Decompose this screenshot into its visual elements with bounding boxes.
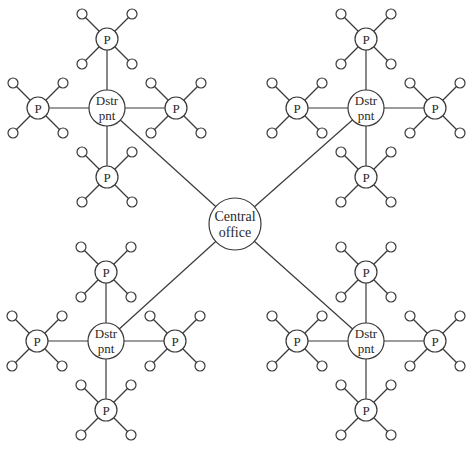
subscriber-node-bottom-right-bottom-1-circle [386, 380, 396, 390]
subscriber-node-bottom-left-right-2-circle [145, 361, 155, 371]
central-office-node-label: office [219, 225, 251, 240]
p-node-top-left-bottom: P [96, 166, 118, 188]
subscriber-node-bottom-left-left-2-circle [7, 361, 17, 371]
subscriber-node-bottom-left-right-3 [195, 361, 205, 371]
distribution-point-top-left: Dstrpnt [89, 90, 125, 126]
subscriber-node-top-right-top-3-circle [386, 59, 396, 69]
subscriber-node-top-right-bottom-2 [336, 197, 346, 207]
subscriber-node-top-left-bottom-1-circle [127, 147, 137, 157]
subscriber-node-bottom-right-bottom-3-circle [386, 430, 396, 440]
subscriber-node-top-right-left-2-circle [267, 128, 277, 138]
subscriber-node-top-right-bottom-1-circle [386, 147, 396, 157]
subscriber-node-top-right-right-2-circle [405, 128, 415, 138]
subscriber-node-bottom-right-left-0 [267, 311, 277, 321]
subscriber-node-top-left-bottom-2 [77, 197, 87, 207]
subscriber-node-bottom-right-right-0 [405, 311, 415, 321]
subscriber-node-top-right-bottom-2-circle [336, 197, 346, 207]
distribution-point-bottom-right: Dstrpnt [348, 323, 384, 359]
distribution-point-bottom-left-label: Dstr [95, 326, 118, 341]
subscriber-node-top-left-bottom-0-circle [77, 147, 87, 157]
p-node-bottom-left-bottom: P [95, 399, 117, 421]
subscriber-node-bottom-right-top-3-circle [386, 292, 396, 302]
distribution-point-bottom-right-label: pnt [358, 341, 375, 356]
subscriber-node-bottom-right-right-3 [455, 361, 465, 371]
subscriber-node-bottom-right-left-1-circle [317, 311, 327, 321]
subscriber-node-top-right-bottom-3-circle [386, 197, 396, 207]
subscriber-node-bottom-left-top-3-circle [126, 292, 136, 302]
subscriber-node-bottom-left-right-1-circle [195, 311, 205, 321]
distribution-point-top-right: Dstrpnt [348, 90, 384, 126]
p-node-bottom-left-top-label: P [102, 265, 109, 280]
subscriber-node-bottom-left-bottom-0 [76, 380, 86, 390]
subscriber-node-top-right-right-2 [405, 128, 415, 138]
subscriber-node-bottom-left-top-1 [126, 242, 136, 252]
p-node-top-left-right: P [165, 97, 187, 119]
subscriber-node-bottom-left-top-2-circle [76, 292, 86, 302]
subscriber-node-top-right-top-2-circle [336, 59, 346, 69]
subscriber-node-bottom-left-right-0-circle [145, 311, 155, 321]
subscriber-node-bottom-right-top-1 [386, 242, 396, 252]
distribution-point-top-right-label: Dstr [355, 93, 378, 108]
subscriber-node-bottom-right-right-3-circle [455, 361, 465, 371]
subscriber-node-bottom-left-bottom-2 [76, 430, 86, 440]
p-node-top-left-bottom-label: P [103, 170, 110, 185]
p-node-top-right-left-label: P [293, 101, 300, 116]
subscriber-node-bottom-left-bottom-0-circle [76, 380, 86, 390]
subscriber-node-top-right-right-3-circle [455, 128, 465, 138]
central-office-node-label: Central [214, 209, 255, 224]
subscriber-node-bottom-left-left-3-circle [57, 361, 67, 371]
p-node-bottom-right-left: P [286, 330, 308, 352]
subscriber-node-bottom-right-top-0-circle [336, 242, 346, 252]
subscriber-node-bottom-right-top-3 [386, 292, 396, 302]
subscriber-node-top-right-bottom-1 [386, 147, 396, 157]
subscriber-node-top-left-right-0-circle [146, 78, 156, 88]
p-node-bottom-left-left-label: P [33, 334, 40, 349]
subscriber-node-top-left-bottom-2-circle [77, 197, 87, 207]
subscriber-node-bottom-right-left-2 [267, 361, 277, 371]
p-node-top-right-left: P [286, 97, 308, 119]
subscriber-node-top-left-left-1-circle [58, 78, 68, 88]
p-node-top-left-left: P [27, 97, 49, 119]
subscriber-node-bottom-left-top-0-circle [76, 242, 86, 252]
subscriber-node-top-right-left-1-circle [317, 78, 327, 88]
p-node-top-right-top: P [355, 28, 377, 50]
subscriber-node-top-right-right-1 [455, 78, 465, 88]
subscriber-node-top-right-top-0 [336, 9, 346, 19]
distribution-point-top-right-label: pnt [358, 108, 375, 123]
subscriber-node-bottom-left-bottom-1 [126, 380, 136, 390]
p-node-bottom-right-top-label: P [362, 265, 369, 280]
subscriber-node-bottom-right-bottom-2-circle [336, 430, 346, 440]
subscriber-node-top-right-right-3 [455, 128, 465, 138]
subscriber-node-bottom-left-left-0 [7, 311, 17, 321]
p-node-bottom-right-bottom: P [355, 399, 377, 421]
subscriber-node-top-right-left-1 [317, 78, 327, 88]
subscriber-node-bottom-left-left-3 [57, 361, 67, 371]
subscriber-node-bottom-right-bottom-2 [336, 430, 346, 440]
subscriber-node-top-right-left-0-circle [267, 78, 277, 88]
subscriber-node-bottom-left-bottom-2-circle [76, 430, 86, 440]
subscriber-node-top-right-bottom-0-circle [336, 147, 346, 157]
subscriber-node-top-left-right-1-circle [196, 78, 206, 88]
p-node-top-right-bottom: P [355, 166, 377, 188]
subscriber-node-bottom-right-top-0 [336, 242, 346, 252]
subscriber-node-top-left-top-2-circle [77, 59, 87, 69]
nodes: PPPPDstrpntPPPPDstrpntPPPPDstrpntPPPPDst… [7, 9, 465, 440]
subscriber-node-top-right-top-1-circle [386, 9, 396, 19]
subscriber-node-bottom-right-left-1 [317, 311, 327, 321]
subscriber-node-top-left-top-1 [127, 9, 137, 19]
subscriber-node-top-right-top-0-circle [336, 9, 346, 19]
subscriber-node-top-right-bottom-3 [386, 197, 396, 207]
subscriber-node-top-right-top-2 [336, 59, 346, 69]
subscriber-node-bottom-left-left-0-circle [7, 311, 17, 321]
subscriber-node-bottom-left-left-1-circle [57, 311, 67, 321]
distribution-point-bottom-left-label: pnt [98, 341, 115, 356]
subscriber-node-top-right-right-0 [405, 78, 415, 88]
subscriber-node-bottom-left-top-1-circle [126, 242, 136, 252]
p-node-top-left-right-label: P [172, 101, 179, 116]
subscriber-node-bottom-left-bottom-1-circle [126, 380, 136, 390]
p-node-bottom-left-bottom-label: P [102, 403, 109, 418]
subscriber-node-bottom-left-bottom-3 [126, 430, 136, 440]
subscriber-node-top-left-right-0 [146, 78, 156, 88]
subscriber-node-bottom-right-left-2-circle [267, 361, 277, 371]
subscriber-node-top-left-right-2 [146, 128, 156, 138]
